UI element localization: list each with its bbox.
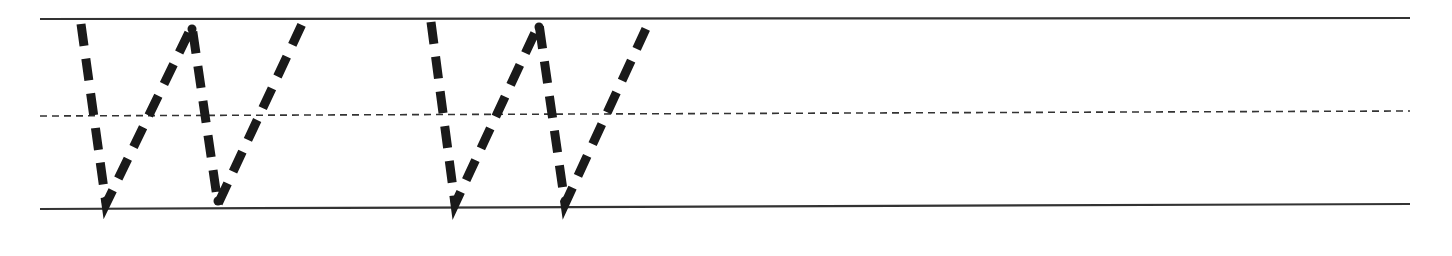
tracing-letter-w-2 <box>431 22 649 204</box>
letter-vertex <box>102 197 111 206</box>
guide-lines <box>40 18 1410 209</box>
tracing-letter-w-1 <box>81 24 302 204</box>
tracing-worksheet <box>0 0 1452 256</box>
letter-vertex <box>535 23 544 32</box>
worksheet-canvas <box>0 0 1452 256</box>
letter-vertex <box>188 25 197 34</box>
tracing-letters <box>81 22 649 206</box>
letter-vertex <box>451 197 460 206</box>
top-guide-line <box>40 18 1410 19</box>
midline-dashed <box>40 111 1410 116</box>
letter-vertex <box>561 197 570 206</box>
baseline-guide-line <box>40 204 1410 209</box>
letter-vertex <box>214 197 223 206</box>
